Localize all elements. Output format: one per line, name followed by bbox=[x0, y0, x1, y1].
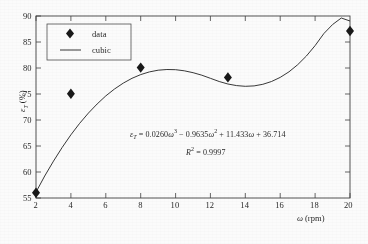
y-tick-label: 90 bbox=[23, 12, 32, 21]
y-tick-label: 85 bbox=[23, 38, 32, 47]
x-tick-label: 16 bbox=[275, 201, 284, 210]
y-axis-units: (%) bbox=[17, 90, 27, 103]
equation-minus-term: − 0.9635 bbox=[177, 130, 208, 139]
equation-eq: = 0.0260 bbox=[137, 130, 168, 139]
y-tick-label: 65 bbox=[23, 142, 32, 151]
x-tick-label: 18 bbox=[310, 201, 319, 210]
data-point bbox=[32, 188, 40, 198]
x-tick-label: 8 bbox=[138, 201, 142, 210]
data-point bbox=[67, 89, 75, 99]
y-tick-label: 70 bbox=[23, 116, 32, 125]
x-tick-label: 20 bbox=[344, 201, 353, 210]
y-tick-label: 60 bbox=[23, 168, 32, 177]
x-tick-label: 6 bbox=[103, 201, 107, 210]
x-axis-units: (rpm) bbox=[303, 213, 325, 223]
y-axis-symbol: ε bbox=[17, 109, 27, 112]
data-point bbox=[137, 62, 145, 72]
x-tick-label: 4 bbox=[68, 201, 72, 210]
x-tick-label: 12 bbox=[205, 201, 214, 210]
r-squared-value: = 0.9997 bbox=[194, 148, 225, 157]
x-axis-title: ω (rpm) bbox=[297, 214, 325, 223]
y-axis-subscript: T bbox=[23, 105, 29, 108]
equation-annotation: εT = 0.0260ω3 − 0.9635ω2 + 11.433ω + 36.… bbox=[130, 128, 286, 140]
legend-item-cubic-label[interactable]: cubic bbox=[92, 46, 111, 55]
data-point bbox=[224, 72, 232, 82]
figure-container: 90 85 80 75 70 65 60 55 2 4 6 8 10 12 14… bbox=[0, 0, 368, 244]
legend-item-data-label[interactable]: data bbox=[92, 30, 107, 39]
y-tick-label: 55 bbox=[23, 194, 32, 203]
y-tick-label: 80 bbox=[23, 64, 32, 73]
legend-box bbox=[47, 24, 131, 60]
equation-plus-term-1: + 11.433 bbox=[217, 130, 248, 139]
r-squared-annotation: R2 = 0.9997 bbox=[186, 146, 226, 157]
data-point bbox=[346, 26, 354, 36]
y-axis-title: εT (%) bbox=[18, 90, 29, 112]
x-tick-label: 14 bbox=[240, 201, 249, 210]
x-tick-label: 10 bbox=[171, 201, 180, 210]
x-tick-label: 2 bbox=[34, 201, 38, 210]
equation-constant: + 36.714 bbox=[254, 130, 285, 139]
